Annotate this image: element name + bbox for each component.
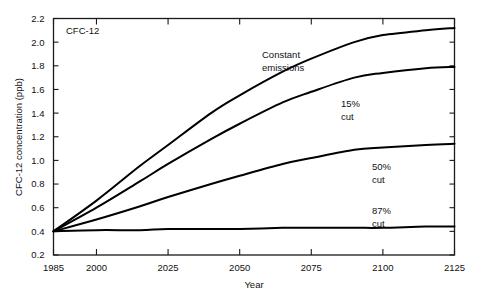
series-annotation-line1: Constant <box>262 49 300 60</box>
x-tick-label: 2075 <box>301 262 322 273</box>
x-tick-label: 2050 <box>229 262 250 273</box>
series-annotation-line2: cut <box>372 174 385 185</box>
series-annotation-line1: 87% <box>372 205 392 216</box>
y-tick-label: 1.8 <box>31 60 44 71</box>
y-tick-label: 0.4 <box>31 226 44 237</box>
x-tick-label: 2125 <box>444 262 465 273</box>
x-tick-label: 2000 <box>86 262 107 273</box>
y-tick-label: 1.0 <box>31 155 44 166</box>
x-tick-label: 1985 <box>43 262 64 273</box>
x-tick-label: 2100 <box>372 262 393 273</box>
x-axis-title: Year <box>244 279 263 290</box>
y-tick-label: 2.2 <box>31 13 44 24</box>
y-tick-label: 0.6 <box>31 202 44 213</box>
series-annotation-line2: emissions <box>262 62 304 73</box>
cfc12-projection-chart: 0.20.40.60.81.01.21.41.61.82.02.2 198520… <box>0 0 481 305</box>
x-tick-label: 2025 <box>158 262 179 273</box>
y-tick-label: 0.8 <box>31 178 44 189</box>
chart-figure: 0.20.40.60.81.01.21.41.61.82.02.2 198520… <box>0 0 481 305</box>
y-tick-label: 1.2 <box>31 131 44 142</box>
series-annotation-line1: 15% <box>341 98 361 109</box>
panel-label: CFC-12 <box>66 25 99 36</box>
y-tick-label: 0.2 <box>31 249 44 260</box>
chart-background <box>0 0 481 305</box>
y-tick-label: 2.0 <box>31 37 44 48</box>
y-tick-label: 1.6 <box>31 84 44 95</box>
series-annotation-line1: 50% <box>372 161 392 172</box>
series-annotation-line2: cut <box>372 218 385 229</box>
y-tick-label: 1.4 <box>31 108 44 119</box>
series-annotation-line2: cut <box>341 111 354 122</box>
y-axis-title: CFC-12 concentration (ppb) <box>13 78 24 196</box>
